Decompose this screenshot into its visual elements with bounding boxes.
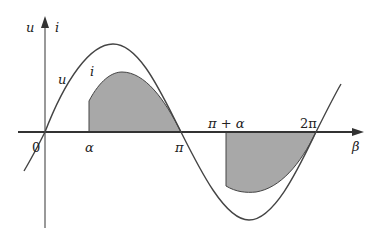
waveform-svg: u i u i 0 α π π + α 2π β: [0, 0, 380, 232]
tick-alpha: α: [85, 140, 94, 155]
curve-label-i: i: [90, 64, 94, 79]
y-label-u: u: [26, 20, 34, 35]
y-label-i: i: [55, 20, 59, 35]
tick-zero: 0: [32, 140, 40, 155]
waveform-diagram: u i u i 0 α π π + α 2π β: [0, 0, 380, 232]
x-label-beta: β: [351, 139, 360, 154]
y-axis-arrow-icon: [41, 16, 49, 28]
tick-pi: π: [174, 140, 184, 155]
tick-pi-plus-alpha: π + α: [207, 116, 245, 131]
curve-label-u: u: [58, 72, 66, 87]
tick-2pi: 2π: [300, 116, 317, 131]
x-axis-arrow-icon: [352, 128, 364, 136]
current-negative-lobe: [226, 132, 316, 192]
current-positive-lobe: [89, 72, 181, 132]
